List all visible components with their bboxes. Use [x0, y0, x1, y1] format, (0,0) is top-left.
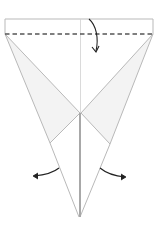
- fold-down-arrow-icon: [89, 19, 99, 52]
- right-flap: [81, 34, 153, 144]
- top-band-outline: [5, 19, 153, 34]
- origami-diagram: [0, 0, 160, 231]
- left-flap: [5, 34, 80, 143]
- unfold-right-arrow-icon: [100, 168, 126, 180]
- unfold-left-arrow-icon: [33, 168, 59, 179]
